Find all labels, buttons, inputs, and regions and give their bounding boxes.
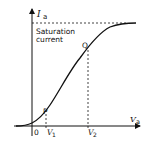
v1-label-sub: 1 <box>52 131 56 138</box>
saturation-label-line2: current <box>36 35 63 44</box>
v2-label-sub: 2 <box>93 131 97 138</box>
point-p-label: P <box>43 107 48 116</box>
y-axis-label: I <box>36 9 41 19</box>
x-axis-label-sub: a <box>136 118 140 126</box>
point-q-label: Q <box>82 41 88 50</box>
diagram-canvas: I a Saturation current Q P V a 0 V 1 V 2 <box>0 0 156 148</box>
origin-label: 0 <box>34 128 39 137</box>
y-axis-label-sub: a <box>43 13 47 21</box>
characteristic-curve <box>16 23 136 126</box>
